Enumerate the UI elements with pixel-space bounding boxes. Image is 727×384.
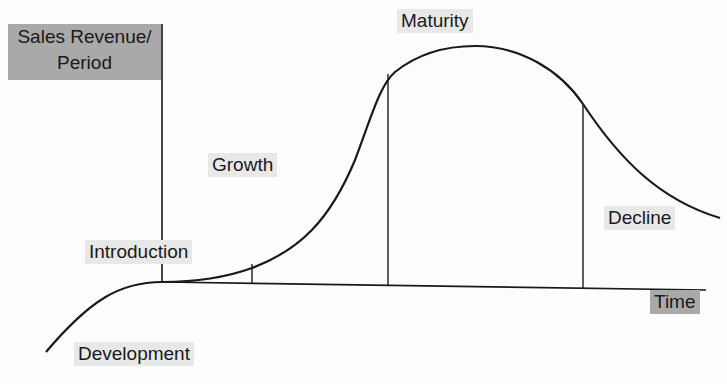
sales-curve xyxy=(46,46,720,352)
stage-label-introduction: Introduction xyxy=(85,240,192,264)
stage-label-growth: Growth xyxy=(208,153,277,177)
product-life-cycle-diagram: Sales Revenue/ Period Time Development I… xyxy=(0,0,727,384)
x-axis-label: Time xyxy=(650,290,700,314)
x-axis xyxy=(162,282,706,290)
stage-label-maturity: Maturity xyxy=(397,9,473,33)
y-axis-label-line2: Period xyxy=(8,50,161,76)
stage-label-decline: Decline xyxy=(604,206,675,230)
stage-label-development: Development xyxy=(74,342,194,366)
y-axis-label-line1: Sales Revenue/ xyxy=(8,24,161,50)
y-axis-label: Sales Revenue/ Period xyxy=(8,24,161,80)
